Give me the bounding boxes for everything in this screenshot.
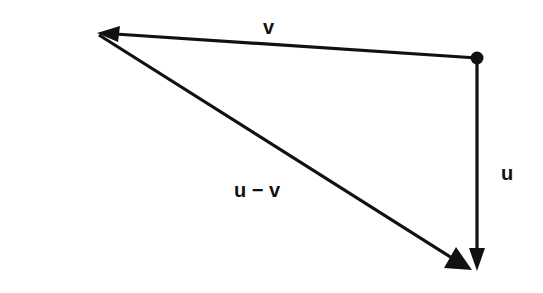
vector-v-arrow — [97, 26, 477, 58]
vector-u-minus-v-arrow — [99, 35, 472, 270]
vector-diagram: v u u − v — [0, 0, 543, 293]
vector-diagram-canvas — [0, 0, 543, 293]
label-u-minus-v: u − v — [234, 180, 280, 200]
label-u: u — [501, 163, 513, 183]
vector-u-arrow — [469, 58, 485, 271]
label-v: v — [263, 17, 274, 37]
origin-dot — [471, 52, 484, 65]
